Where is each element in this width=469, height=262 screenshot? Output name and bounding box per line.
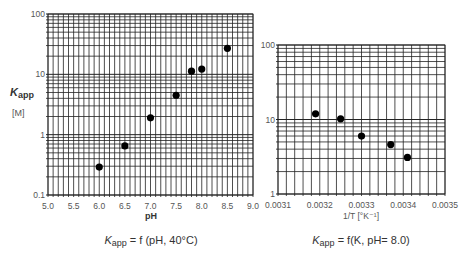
data-point [404,154,411,161]
y-axis-label-left: Kapp [10,86,34,100]
chart-kapp-vs-inverse-temperature: 0.00310.00320.00330.00340.0035110100 [261,40,458,210]
x-tick-label: 6.0 [93,201,105,211]
y-tick-label: 1 [40,130,45,140]
caption-right: Kapp = f(K, pH= 8.0) [312,234,410,248]
data-point [121,142,128,149]
y-tick-label: 10 [266,115,276,125]
y-tick-label: 1 [270,189,275,199]
data-point [147,114,154,121]
data-point [337,115,344,122]
data-point [224,45,231,52]
data-point [358,132,365,139]
x-axis-label-right: 1/T [°K⁻¹] [343,211,379,221]
data-point [188,68,195,75]
figure-canvas: 5.05.56.06.57.07.58.08.59.00.1110100 0.0… [0,0,469,262]
x-tick-label: 7.0 [145,201,157,211]
x-tick-label: 0.0031 [265,200,291,210]
x-tick-label: 8.5 [221,201,233,211]
y-tick-label: 10 [36,69,46,79]
x-tick-label: 6.5 [119,201,131,211]
x-tick-label: 5.5 [68,201,80,211]
x-tick-label: 0.0034 [390,200,416,210]
x-tick-label: 5.0 [42,201,54,211]
x-tick-label: 0.0033 [349,200,375,210]
caption-left: Kapp = f (pH, 40°C) [104,234,197,248]
data-point [198,66,205,73]
data-point [312,110,319,117]
x-tick-label: 9.0 [247,201,259,211]
data-point [173,92,180,99]
x-tick-label: 8.0 [196,201,208,211]
x-axis-label-left: pH [145,211,157,221]
y-tick-label: 100 [31,9,45,19]
x-tick-label: 7.5 [170,201,182,211]
chart-kapp-vs-ph: 5.05.56.06.57.07.58.08.59.00.1110100 [31,9,259,211]
x-tick-label: 0.0035 [432,200,458,210]
x-tick-label: 0.0032 [307,200,333,210]
y-tick-label: 100 [261,40,275,50]
y-tick-label: 0.1 [33,190,45,200]
data-point [387,141,394,148]
y-axis-unit-left: [M] [12,108,25,118]
data-point [96,164,103,171]
